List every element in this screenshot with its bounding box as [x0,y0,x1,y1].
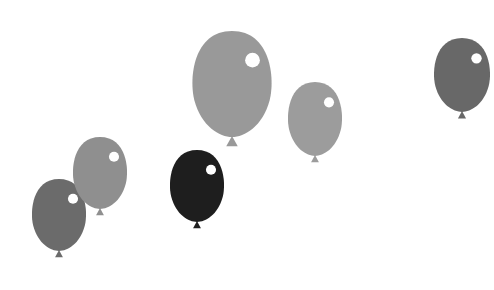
balloon-knot [193,221,201,228]
balloon-body [288,82,342,156]
balloon-b5 [275,70,355,182]
balloon-knot [458,111,466,118]
balloon-body [192,31,271,137]
balloon-highlight [245,53,260,68]
balloon-body [73,137,127,209]
balloon-body [434,38,490,112]
balloon-knot [96,208,104,215]
balloon-highlight [206,165,216,175]
balloon-highlight [324,97,334,107]
balloon-b4 [179,19,285,163]
balloon-knot [226,136,237,146]
balloon-highlight [471,53,481,63]
balloon-b2 [60,125,140,235]
balloon-knot [55,250,63,257]
balloon-highlight [109,152,119,162]
balloon-knot [311,155,319,162]
balloon-b6 [421,26,494,138]
